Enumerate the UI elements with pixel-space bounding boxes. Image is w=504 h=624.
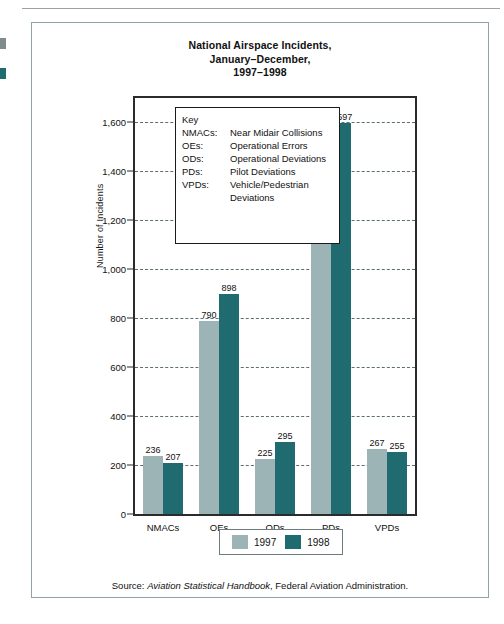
key-rows: NMACs:Near Midair CollisionsOEs:Operatio…	[182, 126, 333, 204]
bar-value-label: 790	[201, 310, 216, 320]
y-axis-tick-mark	[127, 269, 134, 270]
chart-title: National Airspace Incidents, January–Dec…	[32, 39, 488, 80]
legend-swatch-1998	[285, 535, 301, 549]
y-axis-tick-mark	[127, 220, 134, 221]
key-entry-description: Vehicle/Pedestrian Deviations	[230, 178, 333, 204]
bar-oes-1998[interactable]: 898	[219, 294, 239, 514]
chart-title-line-2: January–December,	[32, 53, 488, 67]
key-box: Key NMACs:Near Midair CollisionsOEs:Oper…	[175, 107, 340, 244]
source-note: Source: Aviation Statistical Handbook, F…	[32, 580, 488, 591]
y-axis-tick-mark	[127, 416, 134, 417]
key-entry-abbr: VPDs:	[182, 178, 230, 204]
y-axis-tick-mark	[127, 171, 134, 172]
bar-value-label: 898	[221, 283, 236, 293]
bar-value-label: 225	[257, 448, 272, 458]
key-entry: NMACs:Near Midair Collisions	[182, 126, 333, 139]
y-axis-tick-label: 600	[110, 362, 126, 373]
bar-oes-1997[interactable]: 790	[199, 321, 219, 514]
key-entry-abbr: NMACs:	[182, 126, 230, 139]
scan-artifact-mark	[0, 68, 6, 79]
key-entry-abbr: OEs:	[182, 139, 230, 152]
bar-ods-1998[interactable]: 295	[275, 442, 295, 514]
bar-group: 267255VPDs	[366, 98, 408, 514]
key-entry-description: Pilot Deviations	[230, 165, 333, 178]
key-entry-description: Operational Deviations	[230, 152, 333, 165]
source-title: Aviation Statistical Handbook	[147, 580, 270, 591]
source-suffix: , Federal Aviation Administration.	[270, 580, 408, 591]
key-heading: Key	[182, 113, 333, 126]
figure-frame: National Airspace Incidents, January–Dec…	[31, 22, 489, 598]
y-axis-tick-mark	[127, 465, 134, 466]
chart-title-line-1: National Airspace Incidents,	[32, 39, 488, 53]
key-entry-description: Operational Errors	[230, 139, 333, 152]
bar-value-label: 267	[369, 438, 384, 448]
y-axis-tick-label: 1,600	[102, 117, 126, 128]
x-axis-tick-label: NMACs	[147, 522, 180, 533]
key-entry-abbr: ODs:	[182, 152, 230, 165]
bar-nmacs-1998[interactable]: 207	[163, 463, 183, 514]
key-entry: VPDs:Vehicle/Pedestrian Deviations	[182, 178, 333, 204]
bar-nmacs-1997[interactable]: 236	[143, 456, 163, 514]
key-entry-abbr: PDs:	[182, 165, 230, 178]
bar-value-label: 236	[145, 445, 160, 455]
bar-vpds-1998[interactable]: 255	[387, 452, 407, 514]
y-axis-tick-label: 400	[110, 411, 126, 422]
bar-value-label: 295	[277, 431, 292, 441]
legend-label: 1997	[254, 537, 276, 548]
bar-value-label: 207	[165, 452, 180, 462]
legend-swatch-1997	[232, 535, 248, 549]
y-axis-tick-mark	[127, 122, 134, 123]
key-entry: PDs:Pilot Deviations	[182, 165, 333, 178]
bar-ods-1997[interactable]: 225	[255, 459, 275, 514]
legend-item-1997[interactable]: 1997	[232, 535, 276, 549]
source-prefix: Source:	[112, 580, 147, 591]
y-axis-tick-mark	[127, 318, 134, 319]
x-axis-tick-label: VPDs	[375, 522, 399, 533]
legend-label: 1998	[307, 537, 329, 548]
legend-item-1998[interactable]: 1998	[285, 535, 329, 549]
y-axis-tick-label: 1,400	[102, 166, 126, 177]
scan-artifact-mark	[0, 38, 6, 49]
bar-value-label: 255	[389, 441, 404, 451]
y-axis-tick-label: 200	[110, 460, 126, 471]
bar-vpds-1997[interactable]: 267	[367, 449, 387, 514]
key-entry: OEs:Operational Errors	[182, 139, 333, 152]
y-axis-tick-label: 800	[110, 313, 126, 324]
y-axis-tick-mark	[127, 367, 134, 368]
y-axis-tick-label: 1,000	[102, 264, 126, 275]
chart-title-line-3: 1997–1998	[32, 66, 488, 80]
key-entry-description: Near Midair Collisions	[230, 126, 333, 139]
key-entry: ODs:Operational Deviations	[182, 152, 333, 165]
page-rule	[22, 8, 500, 9]
y-axis-tick-label: 0	[121, 509, 126, 520]
y-axis-tick-label: 1,200	[102, 215, 126, 226]
y-axis-tick-mark	[127, 514, 134, 515]
chart-legend: 19971998	[219, 529, 343, 555]
